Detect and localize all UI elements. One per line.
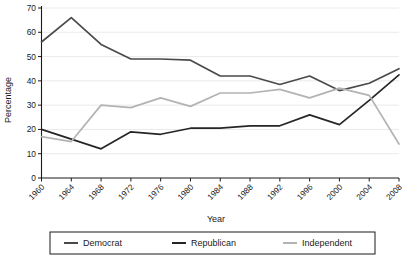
y-tick-label: 60 — [27, 27, 37, 37]
x-tick-label: 1968 — [87, 182, 107, 202]
x-axis-title: Year — [207, 214, 225, 224]
x-tick-label: 1964 — [57, 182, 77, 202]
legend: DemocratRepublicanIndependent — [50, 232, 375, 254]
x-tick-label: 1996 — [295, 182, 315, 202]
line-chart-figure: 010203040506070 196019641968197219761980… — [0, 0, 407, 265]
tick-marks-group — [38, 8, 399, 182]
x-tick-label: 2008 — [385, 182, 405, 202]
y-tick-label: 0 — [31, 173, 36, 183]
y-tick-labels-group: 010203040506070 — [27, 3, 37, 183]
y-tick-label: 10 — [27, 149, 37, 159]
x-tick-label: 1984 — [206, 182, 226, 202]
x-tick-label: 2004 — [355, 182, 375, 202]
y-tick-label: 50 — [27, 52, 37, 62]
x-tick-label: 1992 — [266, 182, 286, 202]
x-tick-label: 1960 — [27, 182, 47, 202]
legend-label: Independent — [302, 238, 353, 248]
series-line-democrat — [42, 18, 400, 91]
x-tick-labels-group: 1960196419681972197619801984198819921996… — [27, 182, 404, 202]
y-axis-title: Percentage — [3, 77, 13, 123]
x-tick-label: 1976 — [146, 182, 166, 202]
y-tick-label: 20 — [27, 124, 37, 134]
series-line-independent — [42, 88, 400, 144]
gridlines-group — [42, 8, 400, 154]
legend-label: Republican — [191, 238, 236, 248]
x-tick-label: 2000 — [325, 182, 345, 202]
y-tick-label: 40 — [27, 76, 37, 86]
chart-svg: 010203040506070 196019641968197219761980… — [0, 0, 407, 265]
x-tick-label: 1972 — [117, 182, 137, 202]
y-tick-label: 30 — [27, 100, 37, 110]
x-tick-label: 1988 — [236, 182, 256, 202]
axes-group — [42, 6, 400, 178]
x-tick-label: 1980 — [176, 182, 196, 202]
y-tick-label: 70 — [27, 3, 37, 13]
legend-label: Democrat — [83, 238, 123, 248]
